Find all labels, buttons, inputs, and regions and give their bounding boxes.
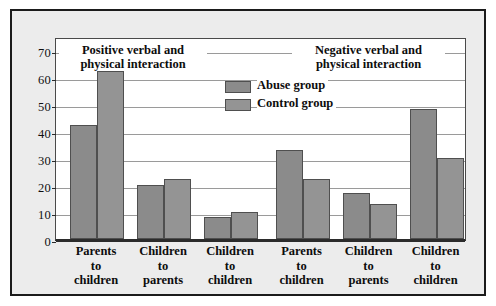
y-tick-label-20: 20	[38, 180, 51, 195]
legend-item-control: Control group	[225, 97, 336, 111]
x-label-line1: Children	[402, 244, 470, 259]
y-tick-label-50: 50	[38, 99, 51, 114]
x-axis-labels: ParentstochildrenChildrentoparentsChildr…	[55, 244, 466, 294]
x-label-line3: children	[196, 273, 264, 288]
bar-p0-c2-control	[231, 212, 258, 239]
y-tick-mark-0	[52, 242, 56, 243]
x-label-p1-c0: Parentstochildren	[268, 244, 336, 288]
bar-p0-c0-control	[97, 71, 124, 239]
legend-label-control-line2: group	[302, 96, 334, 110]
legend-item-abuse: Abuse group	[225, 79, 336, 93]
bar-p1-c1-abuse	[343, 193, 370, 239]
x-label-line2: to	[62, 259, 130, 274]
bar-p1-c2-abuse	[410, 109, 437, 239]
x-label-line2: to	[129, 259, 197, 274]
x-label-line2: to	[402, 259, 470, 274]
bar-p0-c1-abuse	[137, 185, 164, 239]
bar-p0-c0-abuse	[70, 125, 97, 239]
x-label-line2: to	[335, 259, 403, 274]
legend-swatch-abuse-icon	[225, 81, 251, 93]
y-tick-label-30: 30	[38, 153, 51, 168]
x-label-p0-c2: Childrentochildren	[196, 244, 264, 288]
x-label-line3: parents	[129, 273, 197, 288]
legend-label-abuse: Abuse group	[257, 79, 328, 93]
x-label-line3: children	[62, 273, 130, 288]
bar-p1-c2-control	[437, 158, 464, 239]
x-label-p1-c1: Childrentoparents	[335, 244, 403, 288]
panel-title-negative-line1: Negative verbal and	[315, 43, 422, 57]
legend-label-abuse-line1: Abuse	[257, 78, 290, 92]
x-label-line1: Children	[196, 244, 264, 259]
y-tick-label-70: 70	[38, 45, 51, 60]
y-tick-label-10: 10	[38, 207, 51, 222]
panel-title-positive: Positive verbal and physical interaction	[59, 43, 207, 71]
panel-title-negative: Negative verbal and physical interaction	[292, 43, 445, 71]
y-tick-label-40: 40	[38, 126, 51, 141]
bar-p0-c1-control	[164, 179, 191, 239]
x-label-line1: Parents	[268, 244, 336, 259]
y-tick-label-0: 0	[45, 235, 51, 250]
bar-p0-c2-abuse	[204, 217, 231, 239]
x-label-p1-c2: Childrentochildren	[402, 244, 470, 288]
x-label-line2: to	[268, 259, 336, 274]
panel-title-negative-line2: physical interaction	[316, 57, 421, 71]
x-label-line3: children	[402, 273, 470, 288]
legend-label-control-line1: Control	[257, 96, 298, 110]
x-label-line2: to	[196, 259, 264, 274]
panel-title-positive-line2: physical interaction	[80, 57, 185, 71]
bar-p1-c0-abuse	[276, 150, 303, 239]
bar-p1-c0-control	[303, 179, 330, 239]
gridline-0	[56, 240, 465, 242]
x-label-line1: Parents	[62, 244, 130, 259]
legend-label-abuse-line2: group	[293, 78, 325, 92]
y-tick-label-60: 60	[38, 72, 51, 87]
legend-label-control: Control group	[257, 97, 336, 111]
legend-swatch-control-icon	[225, 99, 251, 111]
x-label-line1: Children	[335, 244, 403, 259]
x-label-p0-c1: Childrentoparents	[129, 244, 197, 288]
chart-figure: 010203040506070 Positive verbal and phys…	[10, 9, 486, 296]
x-label-p0-c0: Parentstochildren	[62, 244, 130, 288]
chart-legend: Abuse group Control group	[225, 79, 336, 115]
x-label-line1: Children	[129, 244, 197, 259]
x-label-line3: parents	[335, 273, 403, 288]
x-label-line3: children	[268, 273, 336, 288]
bar-p1-c1-control	[370, 204, 397, 239]
panel-title-positive-line1: Positive verbal and	[82, 43, 184, 57]
